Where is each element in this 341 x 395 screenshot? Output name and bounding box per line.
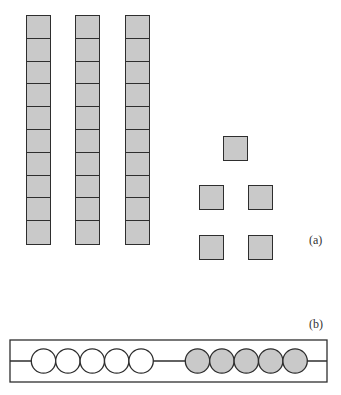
shaded-bead xyxy=(185,349,209,373)
white-beads xyxy=(31,349,153,373)
shaded-bead xyxy=(234,349,258,373)
shaded-bead xyxy=(259,349,283,373)
white-bead xyxy=(31,349,55,373)
white-bead xyxy=(129,349,153,373)
shaded-bead xyxy=(283,349,307,373)
shaded-bead xyxy=(210,349,234,373)
white-bead xyxy=(80,349,104,373)
shaded-beads xyxy=(185,349,307,373)
white-bead xyxy=(105,349,129,373)
white-bead xyxy=(56,349,80,373)
abacus-figure xyxy=(0,0,341,395)
